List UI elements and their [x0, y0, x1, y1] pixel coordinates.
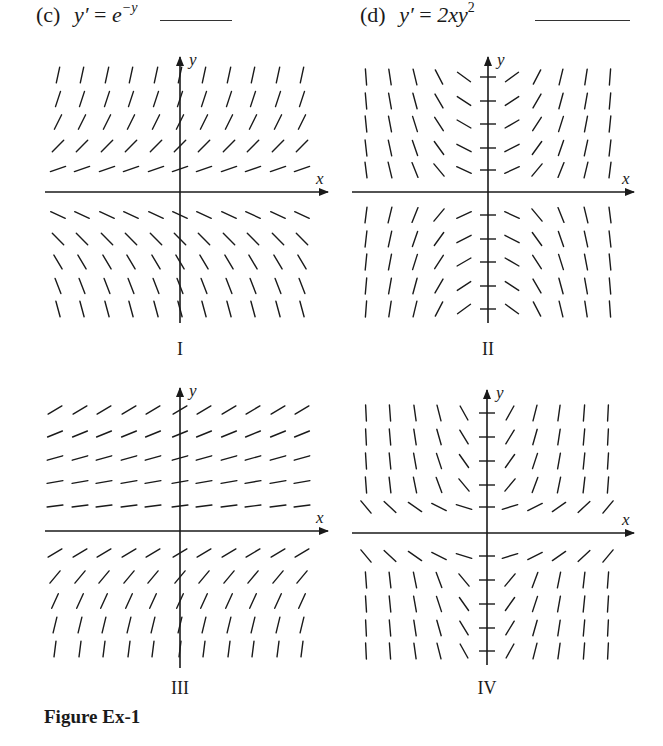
slope-segment — [583, 477, 585, 493]
slope-segment — [152, 641, 154, 657]
slope-segment — [96, 481, 112, 484]
slope-segment — [129, 91, 134, 106]
slope-segment — [435, 94, 443, 108]
slope-segment — [197, 212, 212, 219]
slope-segment — [56, 67, 59, 83]
slope-segment — [459, 455, 468, 468]
slope-segment — [103, 115, 110, 129]
slope-segment — [121, 456, 136, 460]
slope-segment — [249, 115, 256, 129]
y-axis-label: y — [494, 383, 504, 402]
slope-segment — [72, 481, 88, 484]
slope-segment — [75, 571, 85, 583]
slope-segment — [300, 91, 305, 106]
slope-segment — [79, 279, 85, 294]
slope-fields: xyI xyII xyIII xyIV — [0, 0, 663, 746]
slope-segment — [505, 235, 519, 242]
slope-segment — [389, 572, 391, 588]
slope-segment — [145, 481, 161, 484]
slope-segment — [276, 67, 279, 83]
slope-segment — [270, 505, 286, 507]
slope-segment — [271, 549, 285, 557]
slope-segment — [294, 456, 309, 460]
slope-segment — [414, 405, 416, 421]
slope-segment — [583, 620, 584, 636]
slope-segment — [128, 641, 130, 657]
slope-segment — [271, 406, 285, 414]
slope-segment — [413, 278, 417, 293]
slope-segment — [298, 255, 306, 269]
slope-segment — [366, 643, 367, 659]
slope-segment — [559, 278, 563, 293]
slope-segment — [228, 641, 230, 657]
slope-segment — [389, 405, 390, 421]
slope-segment — [457, 258, 471, 266]
slope-segment — [223, 233, 234, 244]
slope-segment — [603, 550, 613, 562]
slope-segment — [437, 453, 442, 468]
slope-segment — [434, 233, 443, 246]
slope-segment — [505, 598, 514, 611]
slope-segment — [609, 278, 610, 294]
y-axis-label: y — [187, 50, 197, 69]
slope-segment — [197, 431, 212, 437]
slope-segment — [102, 617, 106, 633]
slope-segment — [301, 641, 303, 657]
slope-segment — [196, 481, 212, 484]
slope-segment — [104, 279, 110, 294]
slope-segment — [224, 571, 234, 583]
slope-segment — [460, 621, 468, 635]
slope-segment — [366, 405, 367, 421]
slope-segment — [79, 641, 81, 657]
slope-segment — [414, 643, 416, 659]
slope-segment — [245, 166, 260, 171]
slope-segment — [365, 162, 367, 178]
slope-segment — [221, 505, 237, 507]
slope-segment — [584, 207, 588, 223]
slope-segment — [296, 140, 307, 151]
slope-segment — [295, 406, 309, 414]
slope-segment — [459, 574, 469, 586]
slope-segment — [150, 594, 157, 609]
slope-segment — [300, 301, 304, 316]
panel-II: xyII — [352, 50, 634, 359]
slope-segment — [154, 91, 159, 106]
slope-segment — [585, 254, 588, 270]
slope-segment — [48, 549, 62, 557]
slope-segment — [196, 456, 211, 460]
slope-segment — [608, 453, 609, 469]
slope-segment — [388, 207, 392, 223]
slope-segment — [584, 162, 588, 178]
slope-segment — [47, 505, 63, 507]
slope-segment — [52, 233, 63, 244]
slope-segment — [227, 67, 230, 83]
slope-segment — [80, 301, 84, 316]
slope-segment — [276, 91, 281, 106]
slope-segment — [365, 69, 366, 85]
x-axis-label: x — [621, 510, 630, 529]
slope-segment — [203, 641, 205, 657]
slope-segment — [389, 278, 392, 294]
slope-segment — [559, 69, 563, 85]
slope-segment — [270, 166, 285, 171]
slope-segment — [365, 207, 367, 223]
slope-segment — [295, 212, 310, 219]
slope-segment — [505, 282, 518, 291]
slope-segment — [532, 573, 538, 588]
slope-segment — [48, 431, 63, 437]
slope-segment — [227, 617, 231, 633]
slope-segment — [154, 301, 158, 316]
slope-segment — [251, 301, 255, 316]
slope-segment — [74, 166, 89, 171]
slope-segment — [389, 477, 391, 493]
slope-segment — [533, 302, 540, 316]
slope-segment — [505, 167, 520, 174]
slope-segment — [533, 94, 541, 108]
slope-segment — [125, 140, 136, 151]
slope-segment — [78, 255, 86, 269]
slope-segment — [558, 140, 563, 155]
slope-segment — [146, 549, 160, 557]
slope-segment — [389, 301, 391, 317]
slope-segment — [506, 430, 514, 444]
slope-segment — [557, 477, 560, 493]
